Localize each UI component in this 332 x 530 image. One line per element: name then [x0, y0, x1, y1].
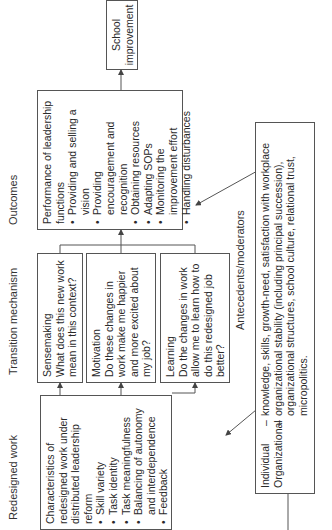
- sensemaking-box: Sensemaking What does this new work mean…: [37, 253, 83, 383]
- outcomes-header: Outcomes: [7, 175, 19, 225]
- list-item: Task identity: [107, 401, 120, 515]
- list-item: Obtaining resources: [129, 96, 142, 215]
- antecedent-row-organizational: Organizational – organizational stabilit…: [272, 128, 310, 488]
- list-item: Balancing of autonomy and interdependenc…: [132, 401, 157, 515]
- antecedent-text: organizational stability (including prin…: [272, 128, 310, 416]
- school-improvement-box: School improvement: [106, 0, 138, 70]
- list-item: Task meaningfulness: [120, 401, 133, 515]
- transition-mechanism-header: Transition mechanism: [7, 268, 19, 375]
- list-item: Handling disturbances: [180, 96, 193, 215]
- list-item: Providing and selling a vision: [66, 96, 91, 215]
- redesigned-work-box: Characteristics of redesigned work under…: [40, 395, 172, 530]
- motivation-box: Motivation Do these changes in work make…: [86, 253, 156, 383]
- list-item: Skill variety: [94, 401, 107, 515]
- learning-question: Do the changes in work allow me to learn…: [177, 259, 227, 377]
- antecedent-dash: –: [272, 416, 310, 426]
- sensemaking-title: Sensemaking: [41, 259, 54, 377]
- antecedent-row-individual: Individual – knowledge, skills, growth-n…: [259, 128, 272, 488]
- motivation-title: Motivation: [90, 259, 103, 377]
- learning-title: Learning: [164, 259, 177, 377]
- list-item: Providing encouragement and recognition: [91, 96, 129, 215]
- outcomes-title: Performance of leadership functions: [41, 96, 66, 224]
- list-item: Feedback: [157, 401, 170, 515]
- antecedents-header: Antecedents/moderators: [234, 210, 246, 330]
- sensemaking-question: What does this new work mean in this con…: [54, 259, 79, 377]
- antecedent-label: Individual: [259, 426, 272, 488]
- list-item: Adapting SOPs: [142, 96, 155, 215]
- outcomes-list: Providing and selling a vision Providing…: [66, 96, 192, 224]
- redesigned-work-title: Characteristics of redesigned work under…: [44, 401, 94, 524]
- antecedent-label: Organizational: [272, 426, 310, 488]
- learning-box: Learning Do the changes in work allow me…: [160, 253, 230, 383]
- outcomes-box: Performance of leadership functions Prov…: [37, 90, 183, 230]
- redesigned-work-list: Skill variety Task identity Task meaning…: [94, 401, 170, 524]
- motivation-question: Do these changes in work make me happier…: [103, 259, 153, 377]
- antecedent-text: knowledge, skills, growth-need, satisfac…: [259, 143, 272, 416]
- redesigned-work-header: Redesigned work: [7, 435, 19, 520]
- antecedents-box: Individual – knowledge, skills, growth-n…: [255, 122, 315, 494]
- antecedent-dash: –: [259, 416, 272, 426]
- list-item: Monitoring the improvement effort: [154, 96, 179, 215]
- distributed-leadership-diagram: Redesigned work Transition mechanism Out…: [0, 0, 332, 530]
